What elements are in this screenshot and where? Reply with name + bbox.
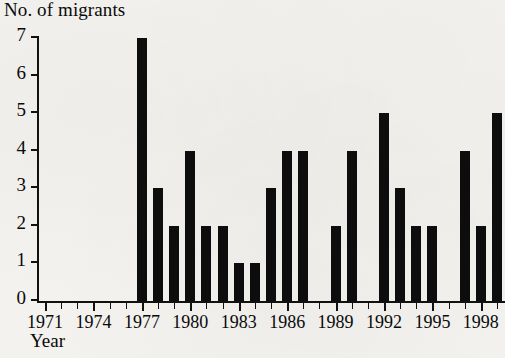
y-axis-tick-label: 0 bbox=[17, 288, 27, 308]
bar bbox=[266, 188, 276, 301]
x-axis-minor-tick bbox=[110, 303, 111, 309]
bar bbox=[169, 226, 179, 301]
bar bbox=[298, 151, 308, 301]
x-axis-minor-tick bbox=[368, 303, 369, 309]
x-axis-minor-tick bbox=[352, 303, 353, 309]
bar bbox=[395, 188, 405, 301]
x-axis-minor-tick bbox=[319, 303, 320, 309]
bar bbox=[185, 151, 195, 301]
y-axis-tick-label: 7 bbox=[17, 25, 27, 45]
bar bbox=[331, 226, 341, 301]
y-axis-tick-label: 6 bbox=[17, 63, 27, 83]
x-axis-tick-label: 1974 bbox=[75, 312, 111, 332]
y-axis-tick: 1 bbox=[31, 261, 37, 263]
bar bbox=[137, 38, 147, 301]
y-axis-tick: 3 bbox=[31, 186, 37, 188]
x-axis-minor-tick bbox=[303, 303, 304, 309]
y-axis-tick-label: 4 bbox=[17, 138, 27, 158]
y-axis-tick: 5 bbox=[31, 111, 37, 113]
bar bbox=[234, 263, 244, 301]
x-axis-minor-tick bbox=[206, 303, 207, 309]
x-axis-minor-tick bbox=[158, 303, 159, 309]
x-axis-tick-label: 1977 bbox=[124, 312, 160, 332]
bar bbox=[492, 113, 502, 301]
y-axis-tick: 7 bbox=[31, 36, 37, 38]
bar bbox=[218, 226, 228, 301]
bar bbox=[282, 151, 292, 301]
y-axis-tick: 4 bbox=[31, 149, 37, 151]
x-axis-major-tick bbox=[93, 303, 95, 311]
y-axis-tick-label: 3 bbox=[17, 175, 27, 195]
x-axis-minor-tick bbox=[255, 303, 256, 309]
x-axis-minor-tick bbox=[271, 303, 272, 309]
x-axis-tick-label: 1980 bbox=[172, 312, 208, 332]
x-axis-ticks: 1971197419771980198319861989199219951998 bbox=[37, 303, 505, 337]
x-axis-major-tick bbox=[45, 303, 47, 311]
x-axis-major-tick bbox=[481, 303, 483, 311]
x-axis-minor-tick bbox=[223, 303, 224, 309]
x-axis-tick-label: 1986 bbox=[269, 312, 305, 332]
x-axis-major-tick bbox=[384, 303, 386, 311]
x-axis-minor-tick bbox=[449, 303, 450, 309]
x-axis-major-tick bbox=[239, 303, 241, 311]
bar bbox=[347, 151, 357, 301]
x-axis-tick-label: 1992 bbox=[366, 312, 402, 332]
y-axis-title: No. of migrants bbox=[4, 0, 125, 21]
x-axis-minor-tick bbox=[77, 303, 78, 309]
y-axis-tick-label: 2 bbox=[17, 213, 27, 233]
bar bbox=[411, 226, 421, 301]
plot-area: 01234567 bbox=[37, 38, 505, 301]
y-axis-tick: 0 bbox=[31, 299, 37, 301]
x-axis-major-tick bbox=[287, 303, 289, 311]
x-axis-major-tick bbox=[142, 303, 144, 311]
x-axis-tick-label: 1971 bbox=[27, 312, 63, 332]
x-axis-major-tick bbox=[432, 303, 434, 311]
bar bbox=[153, 188, 163, 301]
y-axis-tick: 2 bbox=[31, 224, 37, 226]
x-axis-minor-tick bbox=[465, 303, 466, 309]
bar bbox=[460, 151, 470, 301]
x-axis-major-tick bbox=[190, 303, 192, 311]
x-axis-tick-label: 1989 bbox=[318, 312, 354, 332]
y-axis-tick-label: 5 bbox=[17, 100, 27, 120]
chart-figure: No. of migrants 01234567 197119741977198… bbox=[0, 0, 505, 358]
x-axis-minor-tick bbox=[497, 303, 498, 309]
bar bbox=[250, 263, 260, 301]
y-axis-tick: 6 bbox=[31, 74, 37, 76]
x-axis-minor-tick bbox=[126, 303, 127, 309]
bar bbox=[379, 113, 389, 301]
bar bbox=[201, 226, 211, 301]
bar bbox=[427, 226, 437, 301]
x-axis-tick-label: 1983 bbox=[221, 312, 257, 332]
bar bbox=[476, 226, 486, 301]
x-axis-major-tick bbox=[336, 303, 338, 311]
x-axis-tick-label: 1995 bbox=[414, 312, 450, 332]
x-axis-minor-tick bbox=[61, 303, 62, 309]
x-axis-minor-tick bbox=[174, 303, 175, 309]
x-axis-minor-tick bbox=[416, 303, 417, 309]
x-axis-tick-label: 1998 bbox=[463, 312, 499, 332]
x-axis-title: Year bbox=[30, 330, 65, 352]
x-axis-minor-tick bbox=[400, 303, 401, 309]
y-axis-tick-label: 1 bbox=[17, 250, 27, 270]
